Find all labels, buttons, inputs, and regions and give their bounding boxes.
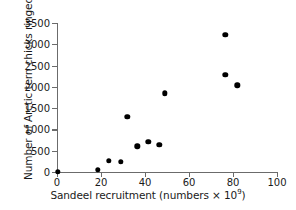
y-tick-label-3000: 3000: [4, 39, 50, 50]
x-tick-80: [233, 172, 234, 177]
x-tick-60: [189, 172, 190, 177]
data-point: [135, 144, 140, 149]
x-tick-label-40: 40: [125, 177, 165, 188]
y-tick-label-2500: 2500: [4, 60, 50, 71]
x-tick-label-20: 20: [81, 177, 121, 188]
y-tick-3500: [52, 23, 57, 24]
x-tick-label-100: 100: [257, 177, 296, 188]
y-tick-2000: [52, 87, 57, 88]
x-tick-100: [277, 172, 278, 177]
data-point: [223, 72, 228, 77]
y-tick-label-0: 0: [4, 167, 50, 178]
y-tick-label-1500: 1500: [4, 103, 50, 114]
data-point: [146, 139, 151, 144]
x-axis-label-tail: ): [242, 189, 246, 201]
data-point: [223, 32, 228, 37]
y-tick-label-3500: 3500: [4, 18, 50, 29]
x-axis-line: [57, 172, 277, 173]
x-axis-label-text: Sandeel recruitment (numbers × 10: [50, 189, 237, 201]
scatter-plot-figure: Number of Arctic tern chicks ringed Sand…: [0, 0, 296, 210]
y-tick-2500: [52, 66, 57, 67]
x-tick-label-60: 60: [169, 177, 209, 188]
data-point: [125, 114, 130, 119]
y-tick-label-2000: 2000: [4, 81, 50, 92]
x-tick-label-0: 0: [37, 177, 77, 188]
data-point: [157, 142, 162, 147]
y-axis-line: [57, 23, 58, 173]
y-tick-1500: [52, 108, 57, 109]
data-point: [55, 169, 60, 174]
x-tick-40: [145, 172, 146, 177]
x-tick-label-80: 80: [213, 177, 253, 188]
data-point: [118, 159, 123, 164]
y-tick-label-500: 500: [4, 145, 50, 156]
data-point: [106, 158, 111, 163]
y-tick-3000: [52, 44, 57, 45]
x-axis-label: Sandeel recruitment (numbers × 109): [0, 188, 296, 201]
y-tick-500: [52, 151, 57, 152]
data-point: [162, 91, 167, 96]
y-tick-1000: [52, 129, 57, 130]
y-tick-label-1000: 1000: [4, 124, 50, 135]
x-tick-20: [101, 172, 102, 177]
data-point: [235, 83, 240, 88]
